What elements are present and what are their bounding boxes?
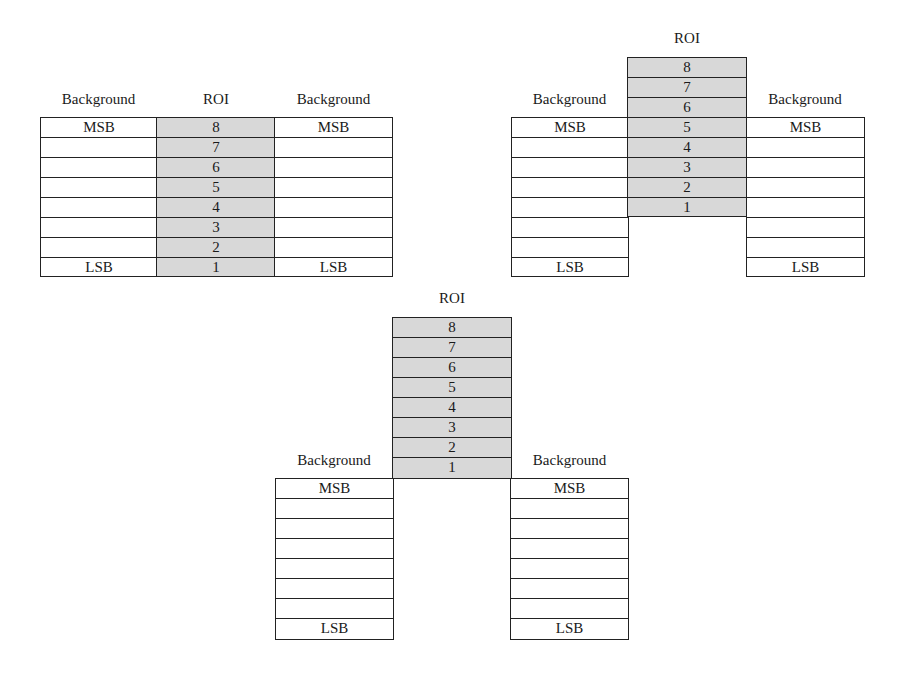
roi-column: 8 7 6 5 4 3 2 1 [392,317,512,479]
roi-bitplane-cell: 5 [393,378,511,398]
roi-bitplane-cell: 2 [393,438,511,458]
bitplane-cell [512,158,628,178]
bitplane-cell [41,158,157,178]
background-left-label: Background [40,90,157,108]
roi-bitplane-cell: 6 [628,98,746,118]
roi-bitplane-cell: 4 [157,198,275,218]
bitplane-cell [511,579,628,599]
bitplane-cell [512,238,628,258]
bitplane-cell [747,178,864,198]
bitplane-cell: LSB [747,258,864,278]
roi-bitplane-cell: 5 [628,118,746,138]
background-left-column: MSB LSB [40,117,158,277]
bitplane-cell [276,579,393,599]
bitplane-cell: MSB [511,479,628,499]
bitplane-cell [747,158,864,178]
roi-bitplane-cell: 8 [628,58,746,78]
roi-bitplane-cell: 2 [157,238,275,258]
background-left-label: Background [511,90,628,108]
bitplane-cell [511,559,628,579]
bitplane-cell [276,539,393,559]
roi-bitplane-cell: 3 [628,158,746,178]
roi-bitplane-cell: 4 [628,138,746,158]
bitplane-cell: MSB [747,118,864,138]
roi-bitplane-cell: 7 [393,338,511,358]
roi-bitplane-cell: 1 [628,198,746,218]
bitplane-cell [276,519,393,539]
bitplane-cell: LSB [275,258,392,278]
bitplane-cell [275,138,392,158]
background-left-column: MSB LSB [275,478,394,640]
bitplane-cell [512,138,628,158]
background-right-label: Background [275,90,392,108]
roi-bitplane-cell: 3 [157,218,275,238]
roi-column: 8 7 6 5 4 3 2 1 [156,117,276,277]
roi-bitplane-cell: 2 [628,178,746,198]
bitplane-cell [275,198,392,218]
bitplane-cell [747,238,864,258]
roi-bitplane-cell: 1 [157,258,275,278]
bitplane-cell: MSB [276,479,393,499]
bitplane-cell: MSB [41,118,157,138]
roi-label: ROI [628,29,746,47]
background-right-column: MSB LSB [274,117,393,277]
background-right-column: MSB LSB [510,478,629,640]
bitplane-cell: MSB [512,118,628,138]
bitplane-cell: LSB [511,619,628,639]
roi-label: ROI [393,289,511,307]
roi-bitplane-cell: 7 [157,138,275,158]
bitplane-cell: MSB [275,118,392,138]
bitplane-cell: LSB [276,619,393,639]
bitplane-cell [512,198,628,218]
bitplane-cell [41,198,157,218]
bitplane-cell [747,138,864,158]
bitplane-cell [275,158,392,178]
bitplane-cell [512,218,628,238]
bitplane-cell [511,499,628,519]
roi-bitplane-cell: 6 [393,358,511,378]
roi-bitplane-cell: 8 [157,118,275,138]
roi-bitplane-cell: 8 [393,318,511,338]
bitplane-cell [41,138,157,158]
bitplane-cell [747,218,864,238]
bitplane-cell [747,198,864,218]
bitplane-cell [275,178,392,198]
background-left-label: Background [275,451,393,469]
background-right-label: Background [746,90,864,108]
roi-bitplane-cell: 3 [393,418,511,438]
background-right-label: Background [511,451,628,469]
roi-label: ROI [157,90,275,108]
bitplane-cell [275,218,392,238]
roi-bitplane-cell: 1 [393,458,511,478]
bitplane-cell [276,499,393,519]
roi-bitplane-cell: 5 [157,178,275,198]
bitplane-cell [276,559,393,579]
background-left-column: MSB LSB [511,117,629,277]
bitplane-cell [511,539,628,559]
bitplane-cell [512,178,628,198]
bitplane-cell [511,519,628,539]
roi-bitplane-cell: 7 [628,78,746,98]
bitplane-cell [41,238,157,258]
bitplane-cell [276,599,393,619]
bitplane-cell [511,599,628,619]
roi-bitplane-cell: 6 [157,158,275,178]
bitplane-cell: LSB [41,258,157,278]
bitplane-cell [41,178,157,198]
background-right-column: MSB LSB [746,117,865,277]
bitplane-cell: LSB [512,258,628,278]
roi-column: 8 7 6 5 4 3 2 1 [627,57,747,217]
bitplane-cell [275,238,392,258]
bitplane-cell [41,218,157,238]
roi-bitplane-cell: 4 [393,398,511,418]
